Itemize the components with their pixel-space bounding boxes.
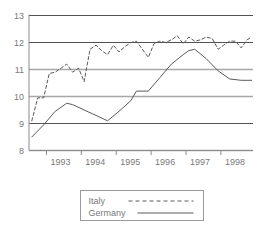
y-tick-label-12: 12: [14, 38, 24, 48]
gridlines: [29, 16, 253, 151]
y-tick-label-10: 10: [14, 92, 24, 102]
series-lines: [32, 36, 252, 137]
x-tick-label-1996: 1996: [155, 157, 175, 167]
axes: [29, 15, 253, 151]
legend-label-germany: Germany: [89, 208, 127, 218]
series-line-italy: [32, 36, 252, 121]
y-tick-label-8: 8: [19, 146, 24, 156]
y-tick-label-9: 9: [19, 119, 24, 129]
x-tick-label-1993: 1993: [50, 157, 70, 167]
line-chart: 8910111213 199319941995199619971998 Ital…: [0, 0, 261, 231]
y-tick-labels: 8910111213: [14, 11, 24, 156]
legend-label-italy: Italy: [89, 196, 106, 206]
x-tick-label-1998: 1998: [225, 157, 245, 167]
x-tick-labels: 199319941995199619971998: [50, 157, 244, 167]
legend-box: ItalyGermany: [81, 191, 204, 221]
y-tick-label-13: 13: [14, 11, 24, 21]
x-tick-label-1997: 1997: [190, 157, 210, 167]
chart-canvas: 8910111213 199319941995199619971998 Ital…: [0, 0, 261, 231]
y-tick-label-11: 11: [15, 65, 24, 75]
x-tick-label-1994: 1994: [85, 157, 105, 167]
x-tick-label-1995: 1995: [120, 157, 140, 167]
